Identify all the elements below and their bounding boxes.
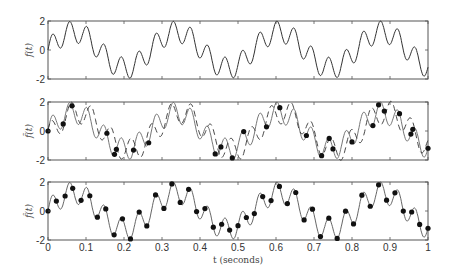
sample-point	[327, 136, 332, 141]
sample-point	[277, 105, 282, 110]
axes-frame	[48, 21, 428, 79]
sample-point	[146, 140, 151, 145]
sample-point	[277, 184, 282, 189]
axes-frame	[48, 102, 428, 160]
sample-point	[370, 123, 375, 128]
sample-point	[425, 146, 430, 151]
tick-label: -2	[36, 74, 45, 85]
tick-label: 1	[425, 242, 431, 253]
sample-point	[169, 181, 174, 186]
sample-point	[401, 208, 406, 213]
sample-markers	[45, 181, 430, 241]
sample-point	[137, 209, 142, 214]
sample-point	[194, 209, 199, 214]
tick-label: 0	[39, 126, 45, 137]
sample-point	[319, 153, 324, 158]
sample-point	[103, 206, 108, 211]
sample-point	[330, 146, 335, 151]
sample-point	[235, 223, 240, 228]
tick-label: 0.4	[193, 242, 207, 253]
sample-point	[120, 216, 125, 221]
sample-point	[95, 215, 100, 220]
signal-line	[48, 21, 428, 78]
sample-point	[144, 223, 149, 228]
sample-point	[409, 209, 414, 214]
sample-point	[310, 207, 315, 212]
sample-point	[230, 155, 235, 160]
sample-point	[382, 108, 387, 113]
sample-point	[186, 187, 191, 192]
sample-point	[87, 193, 92, 198]
dashed-reconstruction-line	[48, 101, 428, 160]
sample-point	[368, 204, 373, 209]
tick-label: 0.6	[269, 242, 283, 253]
sample-point	[302, 217, 307, 222]
ylabel-middle: f̃(t)	[23, 124, 34, 139]
sample-point	[131, 148, 136, 153]
sample-point	[112, 152, 117, 157]
sample-point	[241, 129, 246, 134]
ylabel-bottom: f̂(t)	[23, 204, 34, 219]
sample-point	[213, 151, 218, 156]
sample-point	[178, 200, 183, 205]
sample-point	[384, 198, 389, 203]
tick-label: 0.5	[231, 242, 245, 253]
sample-point	[112, 232, 117, 237]
tick-label: -2	[36, 155, 45, 166]
panel-top	[48, 21, 428, 79]
sample-point	[326, 216, 331, 221]
sample-point	[153, 192, 158, 197]
sample-point	[417, 222, 422, 227]
xlabel: t (seconds)	[213, 255, 263, 265]
sample-point	[61, 121, 66, 126]
sample-point	[252, 211, 257, 216]
sample-point	[128, 236, 133, 241]
sample-point	[397, 111, 402, 116]
tick-label: 0	[45, 242, 51, 253]
panel-middle	[45, 101, 430, 160]
sample-point	[349, 139, 354, 144]
sample-point	[260, 194, 265, 199]
sample-point	[268, 198, 273, 203]
sample-point	[318, 234, 323, 239]
sample-point	[304, 133, 309, 138]
sample-point	[104, 131, 109, 136]
tick-label: -2	[36, 235, 45, 246]
sample-point	[351, 221, 356, 226]
tick-label: 0.2	[117, 242, 131, 253]
ylabel-top: f(t)	[24, 43, 34, 58]
tick-label: 0	[39, 45, 45, 56]
sample-point	[376, 102, 381, 107]
tick-label: 2	[39, 177, 45, 188]
sample-point	[335, 236, 340, 241]
sample-point	[408, 132, 413, 137]
figure: 20-220-220-200.10.20.30.40.50.60.70.80.9…	[0, 0, 450, 275]
sample-point	[202, 206, 207, 211]
sample-point	[244, 215, 249, 220]
tick-label: 2	[39, 97, 45, 108]
sample-point	[219, 222, 224, 227]
original-line	[48, 102, 428, 159]
sample-point	[54, 198, 59, 203]
tick-label: 0	[39, 206, 45, 217]
sample-point	[285, 201, 290, 206]
sample-point	[161, 206, 166, 211]
tick-label: 0.9	[383, 242, 397, 253]
tick-label: 0.8	[345, 242, 359, 253]
tick-label: 0.1	[79, 242, 93, 253]
sample-point	[343, 209, 348, 214]
tick-label: 2	[39, 16, 45, 27]
tick-label: 0.3	[155, 242, 169, 253]
tick-label: 0.7	[307, 242, 321, 253]
sample-point	[376, 182, 381, 187]
sample-point	[69, 103, 74, 108]
sample-point	[425, 226, 430, 231]
sample-point	[359, 193, 364, 198]
sample-point	[293, 190, 298, 195]
sample-point	[227, 227, 232, 232]
sample-point	[410, 127, 415, 132]
sample-point	[392, 190, 397, 195]
sample-point	[78, 198, 83, 203]
sample-markers	[45, 102, 430, 160]
sample-point	[264, 124, 269, 129]
